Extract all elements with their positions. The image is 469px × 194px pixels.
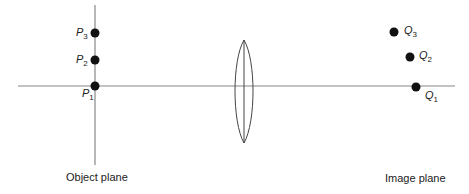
point-q2 <box>406 53 415 62</box>
point-q3 <box>390 28 399 37</box>
image-plane-label: Image plane <box>385 173 446 184</box>
label-q1: Q1 <box>425 90 438 104</box>
optics-diagram <box>0 0 469 194</box>
label-p3: P3 <box>76 27 88 41</box>
label-q2: Q2 <box>419 50 432 64</box>
point-p3 <box>91 29 100 38</box>
point-q1 <box>412 83 421 92</box>
label-p1: P1 <box>82 88 94 102</box>
label-q3: Q3 <box>404 25 417 39</box>
label-p2: P2 <box>76 54 88 68</box>
point-p2 <box>91 56 100 65</box>
lens <box>235 40 253 143</box>
object-plane-label: Object plane <box>66 172 128 183</box>
